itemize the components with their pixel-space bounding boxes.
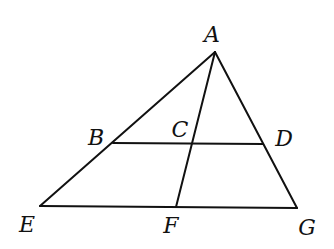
segments: [40, 52, 297, 208]
label-b: B: [87, 125, 104, 150]
label-g: G: [298, 215, 316, 240]
label-c: C: [172, 117, 189, 142]
segment-eg: [40, 206, 297, 208]
geometry-diagram: A B C D E F G: [0, 0, 334, 249]
label-d: D: [274, 126, 293, 151]
label-e: E: [18, 212, 35, 237]
label-a: A: [202, 22, 220, 47]
label-f: F: [162, 213, 179, 238]
segment-ae: [40, 52, 215, 206]
segment-bd: [113, 143, 263, 144]
